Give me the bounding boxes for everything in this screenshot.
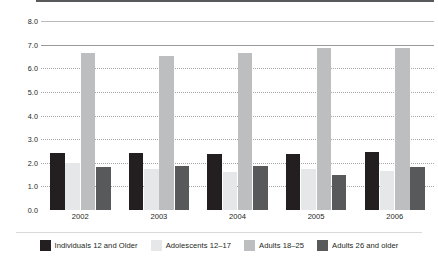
- y-axis-tick-label: 1.0: [28, 182, 38, 191]
- bar: [317, 48, 332, 210]
- bar: [207, 154, 222, 210]
- legend-item[interactable]: Adults 26 and older: [317, 240, 398, 251]
- bar: [395, 48, 410, 210]
- legend-item-label: Adults 18–25: [259, 241, 304, 250]
- chart-legend: Individuals 12 and OlderAdolescents 12–1…: [0, 234, 438, 256]
- bar: [129, 153, 144, 210]
- y-axis-tick-label: 5.0: [28, 87, 38, 96]
- legend-swatch-icon: [244, 240, 255, 251]
- bar: [175, 166, 190, 210]
- y-axis-tick-label: 4.0: [28, 111, 38, 120]
- bar: [65, 163, 80, 210]
- bar: [332, 175, 347, 210]
- legend-item-label: Individuals 12 and Older: [55, 241, 138, 250]
- y-axis-tick-label: 6.0: [28, 64, 38, 73]
- bar: [380, 171, 395, 210]
- bar: [238, 53, 253, 210]
- bar: [96, 167, 111, 210]
- legend-item[interactable]: Individuals 12 and Older: [40, 240, 138, 251]
- bar-chart: 8.07.06.05.04.03.02.01.00.0 200220032004…: [0, 0, 438, 270]
- legend-swatch-icon: [317, 240, 328, 251]
- bar: [50, 153, 65, 210]
- bar: [223, 172, 238, 210]
- bar: [159, 56, 174, 210]
- x-axis-tick-label: 2002: [72, 212, 89, 221]
- bars-layer: [41, 0, 434, 228]
- x-axis-tick-label: 2006: [386, 212, 403, 221]
- x-axis-line: [36, 0, 434, 2]
- y-axis-tick-label: 7.0: [28, 40, 38, 49]
- y-axis-tick-label: 8.0: [28, 17, 38, 26]
- legend-item-label: Adolescents 12–17: [166, 241, 231, 250]
- x-axis-tick-label: 2003: [150, 212, 167, 221]
- y-axis: 8.07.06.05.04.03.02.01.00.0: [12, 0, 38, 228]
- bar: [410, 167, 425, 210]
- y-axis-tick-label: 0.0: [28, 206, 38, 215]
- y-axis-tick-label: 2.0: [28, 158, 38, 167]
- x-axis: 20022003200420052006: [41, 212, 434, 230]
- bar: [253, 166, 268, 210]
- y-axis-tick-label: 3.0: [28, 135, 38, 144]
- bar: [286, 154, 301, 210]
- legend-swatch-icon: [40, 240, 51, 251]
- legend-divider: [16, 232, 422, 233]
- legend-item[interactable]: Adolescents 12–17: [151, 240, 231, 251]
- x-axis-tick-label: 2005: [308, 212, 325, 221]
- legend-swatch-icon: [151, 240, 162, 251]
- bar: [81, 53, 96, 210]
- bar: [365, 152, 380, 210]
- bar: [144, 169, 159, 210]
- x-axis-tick-label: 2004: [229, 212, 246, 221]
- legend-item-label: Adults 26 and older: [332, 241, 398, 250]
- bar: [301, 169, 316, 210]
- plot-area: 8.07.06.05.04.03.02.01.00.0: [0, 0, 438, 228]
- legend-item[interactable]: Adults 18–25: [244, 240, 304, 251]
